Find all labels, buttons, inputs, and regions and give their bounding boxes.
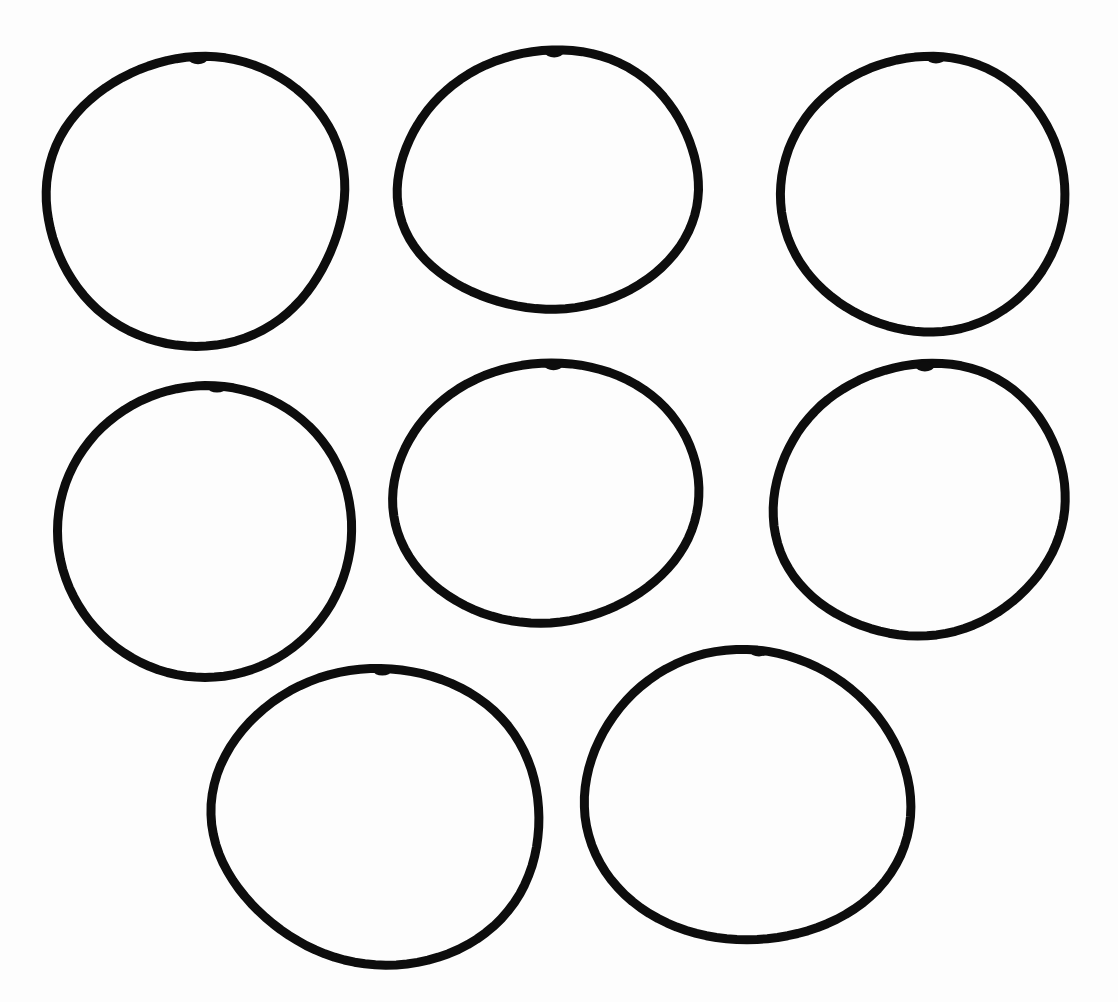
hand-drawn-circle [46, 54, 345, 346]
circle-outline [773, 363, 1065, 636]
circle-outline [58, 386, 352, 678]
circle-outline [584, 649, 911, 939]
hand-drawn-circle [393, 360, 699, 623]
hand-drawn-circle [773, 362, 1065, 637]
hand-drawn-circle [397, 48, 698, 310]
hand-drawn-circle [211, 666, 539, 966]
pen-start-mark [373, 666, 391, 676]
pen-start-mark [189, 54, 207, 64]
circle-outline [393, 363, 699, 623]
paper-sheet [0, 0, 1118, 1002]
hand-drawn-circle [584, 646, 911, 939]
circles-layer [46, 48, 1065, 966]
pen-start-mark [927, 53, 945, 63]
hand-drawn-circle [780, 53, 1065, 332]
pen-start-mark [750, 646, 768, 656]
pen-start-mark [916, 362, 934, 372]
pen-start-mark [545, 48, 563, 58]
circle-outline [397, 50, 698, 309]
hand-drawn-circle [58, 383, 352, 678]
circle-outline [780, 56, 1065, 332]
circle-outline [211, 669, 539, 966]
drawing-canvas [0, 0, 1118, 1002]
pen-start-mark [545, 360, 563, 370]
circle-outline [46, 56, 345, 346]
pen-start-mark [208, 383, 226, 393]
